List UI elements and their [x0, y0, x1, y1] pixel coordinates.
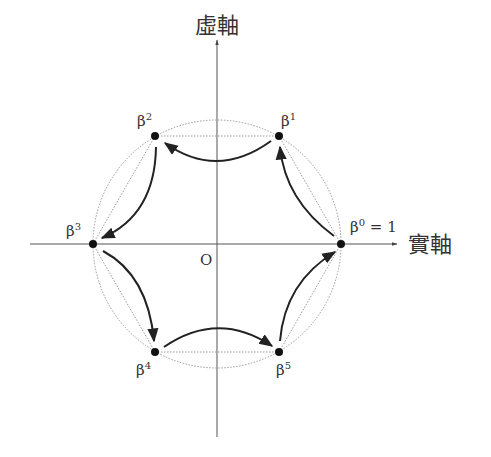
- point-label-beta3: β3: [66, 221, 81, 240]
- point-label-beta4: β4: [136, 360, 151, 379]
- point-label-beta0: β0 = 1: [350, 217, 397, 236]
- point-label-beta5: β5: [276, 360, 291, 379]
- origin-label: O: [200, 251, 212, 269]
- point-label-beta2: β2: [137, 111, 152, 130]
- imaginary-axis-label: 虛軸: [195, 13, 239, 38]
- point-label-beta1: β1: [281, 111, 296, 130]
- real-axis-label: 實軸: [408, 232, 452, 257]
- unit-circle-diagram: 虛軸 實軸 O β0 = 1 β1 β2 β3 β4 β5: [0, 0, 491, 457]
